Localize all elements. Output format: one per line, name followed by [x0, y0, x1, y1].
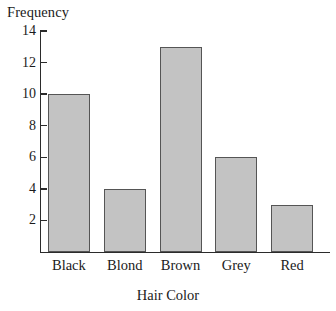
y-tick-mark — [41, 62, 47, 63]
y-tick-label: 14 — [2, 24, 36, 38]
bar-red — [271, 205, 313, 252]
x-axis-title: Hair Color — [0, 286, 336, 305]
y-tick-label-wrap: 10 — [0, 87, 36, 101]
y-tick-label: 6 — [2, 150, 36, 164]
y-tick-label-wrap: 2 — [0, 213, 36, 227]
y-tick-label-wrap: 14 — [0, 24, 36, 38]
y-tick-mark — [41, 93, 47, 94]
y-tick-label: 2 — [2, 213, 36, 227]
bar-black — [48, 94, 90, 252]
y-tick-label-wrap: 4 — [0, 182, 36, 196]
bar-brown — [160, 47, 202, 252]
bar-chart: Frequency 2468101214 BlackBlondBrownGrey… — [0, 0, 336, 311]
y-tick-label: 12 — [2, 56, 36, 70]
x-tick-label-grey: Grey — [208, 256, 264, 275]
y-tick-label: 10 — [2, 87, 36, 101]
bar-grey — [215, 157, 257, 252]
y-tick-label-wrap: 12 — [0, 56, 36, 70]
x-tick-label-red: Red — [264, 256, 320, 275]
y-tick-mark — [41, 188, 47, 189]
y-tick-mark — [41, 157, 47, 158]
y-tick-label-wrap: 8 — [0, 119, 36, 133]
y-tick-mark — [41, 220, 47, 221]
x-tick-label-brown: Brown — [153, 256, 209, 275]
y-tick-mark — [41, 30, 47, 31]
y-tick-label-wrap: 6 — [0, 150, 36, 164]
x-tick-label-blond: Blond — [97, 256, 153, 275]
x-tick-label-black: Black — [41, 256, 97, 275]
bar-blond — [104, 189, 146, 252]
y-tick-mark — [41, 125, 47, 126]
y-axis-title: Frequency — [7, 3, 69, 21]
y-tick-label: 8 — [2, 119, 36, 133]
y-tick-label: 4 — [2, 182, 36, 196]
